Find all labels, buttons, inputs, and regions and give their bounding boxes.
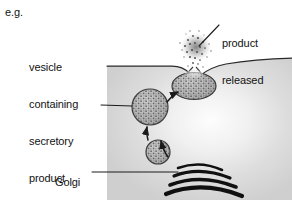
product-released-label: product released [222, 12, 263, 111]
eg-note: e.g. [5, 6, 23, 18]
golgi-body-label: Golgi body [55, 151, 80, 208]
vesicle-large [132, 89, 168, 125]
product-released-line-2: released [222, 74, 263, 86]
vesicle-label-line-2: containing [29, 98, 88, 110]
product-released-line-1: product [222, 37, 263, 49]
vesicle-small [146, 140, 170, 164]
exocytosis-diagram: e.g. vesicle containing secretory produc… [0, 0, 292, 208]
product-cloud [179, 30, 212, 67]
golgi-label-line-1: Golgi [55, 176, 80, 188]
vesicle-label-line-1: vesicle [29, 61, 88, 73]
vesicle-label-line-3: secretory [29, 135, 88, 147]
